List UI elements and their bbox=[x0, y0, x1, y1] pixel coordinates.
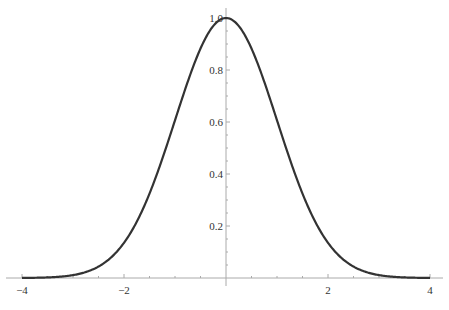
gaussian-plot: −4−224 0.20.40.60.81.0 bbox=[0, 0, 449, 310]
y-ticks bbox=[226, 18, 230, 265]
y-tick-label: 0.8 bbox=[209, 64, 223, 76]
x-tick-label: −2 bbox=[118, 284, 130, 296]
y-tick-labels: 0.20.40.60.81.0 bbox=[209, 12, 223, 232]
y-tick-label: 0.2 bbox=[209, 220, 223, 232]
x-tick-label: 2 bbox=[325, 284, 331, 296]
x-tick-label: −4 bbox=[16, 284, 28, 296]
y-tick-label: 0.6 bbox=[209, 116, 223, 128]
y-tick-label: 0.4 bbox=[209, 168, 223, 180]
x-tick-label: 4 bbox=[427, 284, 433, 296]
x-tick-labels: −4−224 bbox=[16, 284, 433, 296]
